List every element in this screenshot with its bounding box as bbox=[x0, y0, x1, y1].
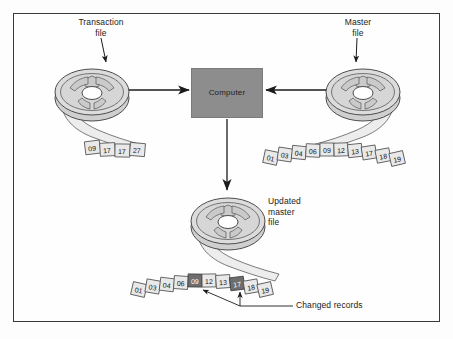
updated-master-file-label: Updated master file bbox=[268, 196, 328, 228]
computer-label: Computer bbox=[191, 88, 263, 97]
diagram-page: 09 17 17 27 bbox=[0, 0, 453, 339]
diagram-frame bbox=[13, 13, 440, 322]
changed-records-label: Changed records bbox=[296, 300, 406, 311]
transaction-file-label: Transaction file bbox=[61, 17, 141, 38]
master-file-label: Master file bbox=[318, 17, 398, 38]
